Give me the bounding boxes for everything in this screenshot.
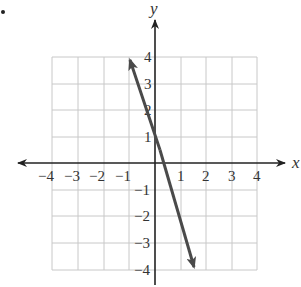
y-tick: 3 <box>144 76 152 92</box>
x-tick: −3 <box>64 168 80 184</box>
x-tick: 1 <box>177 168 185 184</box>
coordinate-plane: y x −4 −3 −2 −1 1 2 3 4 4 3 2 1 −1 −2 −3… <box>0 0 301 287</box>
y-tick: −2 <box>134 208 150 224</box>
x-tick: −1 <box>115 168 131 184</box>
x-tick: 2 <box>202 168 210 184</box>
x-tick: 4 <box>253 168 261 184</box>
bullet-dot <box>1 10 5 14</box>
y-tick: 4 <box>144 49 152 65</box>
axes <box>18 20 285 285</box>
y-tick: −4 <box>134 262 150 278</box>
x-tick: −2 <box>89 168 105 184</box>
y-tick: −3 <box>134 235 150 251</box>
x-tick: 3 <box>228 168 236 184</box>
x-axis-label: x <box>291 153 300 172</box>
x-tick: −4 <box>38 168 54 184</box>
y-axis-label: y <box>148 0 158 18</box>
y-tick: 1 <box>144 129 152 145</box>
y-tick: −1 <box>134 182 150 198</box>
